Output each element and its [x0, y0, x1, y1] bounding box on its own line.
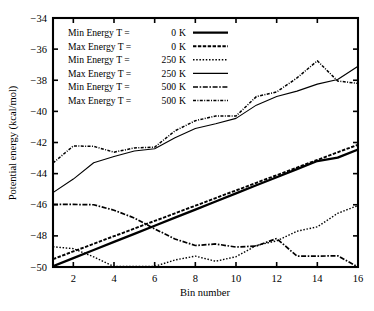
chart-legend: Min Energy T =0KMax Energy T =0KMin Ener…: [68, 27, 228, 106]
x-tick-label: 2: [71, 273, 76, 284]
legend-temperature-2: 250: [162, 54, 177, 65]
legend-unit-2: K: [179, 54, 186, 65]
potential-energy-line-chart: Potential energy (kcal/mol) Bin number −…: [0, 0, 374, 311]
y-tick-label: −42: [31, 137, 47, 148]
x-tick-label: 14: [312, 273, 323, 284]
y-tick-label: −48: [31, 230, 47, 241]
legend-unit-5: K: [179, 95, 186, 106]
legend-unit-4: K: [179, 81, 186, 92]
series-line-4: [53, 204, 358, 267]
y-tick-label: −44: [31, 168, 48, 179]
legend-temperature-1: 0: [171, 41, 176, 52]
x-axis-title: Bin number: [180, 287, 230, 298]
legend-temperature-5: 500: [162, 95, 177, 106]
x-tick-label: 16: [353, 273, 364, 284]
legend-label-5: Max Energy T =: [68, 95, 131, 106]
series-line-2: [53, 206, 358, 267]
legend-label-3: Max Energy T =: [68, 68, 131, 79]
y-tick-label: −34: [31, 13, 48, 24]
x-tick-label: 6: [152, 273, 157, 284]
legend-label-2: Min Energy T =: [68, 54, 130, 65]
chart-figure: Potential energy (kcal/mol) Bin number −…: [0, 0, 374, 311]
legend-label-4: Min Energy T =: [68, 81, 130, 92]
y-tick-label: −38: [31, 75, 47, 86]
y-tick-label: −46: [31, 199, 47, 210]
series-line-1: [53, 145, 358, 260]
y-axis-title: Potential energy (kcal/mol): [7, 85, 19, 200]
legend-label-1: Max Energy T =: [68, 41, 131, 52]
x-tick-label: 8: [193, 273, 198, 284]
legend-temperature-0: 0: [171, 27, 176, 38]
legend-unit-1: K: [179, 41, 186, 52]
y-tick-label: −36: [31, 44, 47, 55]
legend-unit-3: K: [179, 68, 186, 79]
legend-unit-0: K: [179, 27, 186, 38]
x-axis-tick-labels: 246810121416: [71, 273, 364, 284]
series-line-0: [53, 150, 358, 267]
legend-label-0: Min Energy T =: [68, 27, 130, 38]
legend-temperature-3: 250: [162, 68, 177, 79]
y-tick-label: −40: [31, 106, 47, 117]
y-tick-label: −50: [31, 262, 47, 273]
x-tick-label: 12: [271, 273, 282, 284]
x-tick-label: 10: [231, 273, 242, 284]
y-axis-tick-labels: −34−36−38−40−42−44−46−48−50: [31, 13, 48, 273]
x-tick-label: 4: [111, 273, 117, 284]
legend-temperature-4: 500: [162, 81, 177, 92]
